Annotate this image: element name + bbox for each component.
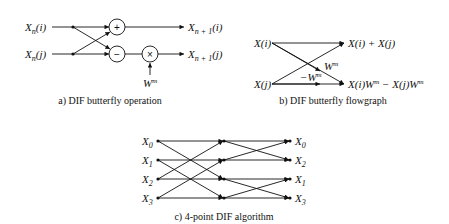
twiddle-factor-label: Wm — [143, 77, 157, 89]
subtractor-symbol: − — [114, 49, 120, 60]
output-xn1-j: Xn + 1(j) — [187, 48, 223, 63]
adder-symbol: + — [114, 22, 120, 33]
node-dot — [71, 52, 74, 55]
input-x3: X3 — [141, 192, 153, 207]
input-x0: X0 — [141, 135, 153, 150]
node-dots — [156, 139, 291, 199]
dif-fft-figure: + − × Xn(i) Xn(j) Xn + 1(i) Xn + 1(j) Wm… — [0, 0, 449, 224]
output-x3: X3 — [294, 192, 306, 207]
weight-positive: Wm — [324, 60, 338, 72]
input-x-i: X(i) — [253, 37, 271, 50]
output-x0: X0 — [294, 135, 306, 150]
output-x2: X2 — [294, 154, 306, 169]
caption-b: b) DIF butterfly flowgraph — [279, 95, 386, 107]
output-x1: X1 — [294, 173, 306, 188]
input-x-j: X(j) — [253, 78, 271, 91]
caption-a: a) DIF butterfly operation — [58, 95, 162, 107]
input-xn-i: Xn(i) — [24, 21, 46, 36]
caption-c: c) 4-point DIF algorithm — [174, 211, 273, 223]
input-x1: X1 — [141, 154, 153, 169]
output-sum: X(i) + X(j) — [347, 37, 395, 50]
panel-c-4point-dif — [158, 141, 289, 198]
input-xn-j: Xn(j) — [24, 48, 46, 63]
weight-negative: −Wm — [300, 71, 322, 83]
output-xn1-i: Xn + 1(i) — [187, 21, 223, 36]
multiplier-symbol: × — [147, 49, 153, 60]
input-x2: X2 — [141, 173, 153, 188]
output-difference: X(i)Wm − X(j)Wm — [347, 78, 424, 91]
node-dot — [71, 25, 74, 28]
